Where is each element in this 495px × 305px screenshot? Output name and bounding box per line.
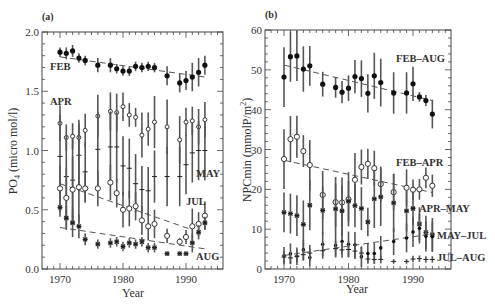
trend-line bbox=[284, 234, 432, 256]
x-tick-label: 1990 bbox=[402, 273, 425, 285]
data-point bbox=[307, 63, 312, 68]
data-point bbox=[133, 204, 138, 209]
label-apr: APR bbox=[50, 96, 72, 107]
data-point bbox=[165, 233, 170, 238]
series-apr-may bbox=[282, 168, 435, 252]
series-feb bbox=[57, 45, 207, 92]
series-feb-aug bbox=[281, 31, 435, 129]
data-point bbox=[391, 90, 396, 95]
data-point bbox=[339, 90, 344, 95]
data-point bbox=[410, 187, 415, 192]
data-point bbox=[177, 80, 182, 85]
panel-a-label: (a) bbox=[42, 11, 54, 23]
y-tick-label: 0.0 bbox=[25, 263, 39, 275]
data-point bbox=[196, 70, 201, 75]
x-tick-label: 1970 bbox=[49, 273, 72, 285]
label-jul-aug: JUL–AUG bbox=[437, 252, 485, 263]
panel-b-label: (b) bbox=[265, 9, 277, 21]
data-point bbox=[365, 161, 370, 166]
data-point bbox=[392, 240, 396, 244]
y-tick-label: 0.5 bbox=[25, 204, 39, 216]
y-tick-label: 1.5 bbox=[25, 85, 39, 97]
panel-a-data bbox=[57, 45, 207, 256]
data-point bbox=[202, 63, 207, 68]
data-point bbox=[83, 128, 87, 132]
data-point bbox=[146, 127, 150, 131]
series-apr bbox=[58, 92, 207, 163]
data-point bbox=[411, 230, 415, 234]
trend-line bbox=[60, 57, 205, 77]
data-point bbox=[83, 58, 88, 63]
data-point bbox=[301, 66, 306, 71]
data-point bbox=[177, 239, 182, 244]
data-point bbox=[76, 185, 81, 190]
data-point bbox=[352, 74, 357, 79]
data-point bbox=[121, 105, 125, 109]
panel-b: (b) 0102030405060 197019801990 Year NPCm… bbox=[239, 9, 486, 296]
data-point bbox=[320, 82, 325, 87]
data-point bbox=[95, 186, 100, 191]
data-point bbox=[152, 221, 157, 226]
data-point bbox=[184, 120, 188, 124]
data-point bbox=[365, 91, 370, 96]
data-point bbox=[153, 120, 157, 124]
panel-a-ytick-labels: 0.00.51.01.52.0 bbox=[25, 26, 39, 275]
data-point bbox=[139, 65, 144, 70]
data-point bbox=[108, 63, 113, 68]
y-tick-label: 0 bbox=[257, 263, 263, 275]
data-point bbox=[146, 64, 151, 69]
data-point bbox=[281, 156, 286, 161]
data-point bbox=[83, 186, 88, 191]
data-point bbox=[183, 78, 188, 83]
data-point bbox=[307, 162, 312, 167]
data-point bbox=[405, 236, 409, 240]
data-point bbox=[57, 186, 62, 191]
data-point bbox=[378, 80, 383, 85]
data-point bbox=[178, 138, 182, 142]
data-point bbox=[404, 185, 409, 190]
y-tick-label: 2.0 bbox=[25, 26, 39, 38]
trend-line bbox=[284, 65, 432, 100]
data-point bbox=[333, 85, 338, 90]
data-point bbox=[404, 90, 409, 95]
data-point bbox=[76, 55, 81, 60]
data-point bbox=[410, 81, 415, 86]
data-point bbox=[64, 51, 69, 56]
data-point bbox=[294, 53, 299, 58]
data-point bbox=[146, 224, 151, 229]
series-jul bbox=[57, 152, 207, 246]
data-point bbox=[133, 64, 138, 69]
data-point bbox=[152, 65, 157, 70]
label-aug: AUG bbox=[196, 251, 219, 262]
data-point bbox=[424, 235, 428, 239]
label-feb: FEB bbox=[50, 61, 70, 72]
panel-b-ylabel: NPCmin (mmolP/m2) bbox=[239, 98, 254, 202]
data-point bbox=[120, 207, 125, 212]
data-point bbox=[165, 125, 169, 129]
label-may: MAY bbox=[196, 168, 221, 179]
data-point bbox=[190, 74, 195, 79]
data-point bbox=[114, 66, 119, 71]
data-point bbox=[379, 246, 383, 250]
data-point bbox=[127, 206, 132, 211]
data-point bbox=[165, 73, 170, 78]
data-point bbox=[71, 134, 75, 138]
trend-line bbox=[60, 184, 192, 230]
data-point bbox=[57, 50, 62, 55]
data-point bbox=[417, 94, 422, 99]
data-point bbox=[134, 115, 138, 119]
label-may-jul: MAY–JUL bbox=[437, 230, 486, 241]
data-point bbox=[423, 98, 428, 103]
data-point bbox=[70, 48, 75, 53]
data-point bbox=[108, 180, 113, 185]
y-tick-label: 1.0 bbox=[25, 145, 39, 157]
x-tick-label: 1980 bbox=[112, 273, 135, 285]
data-point bbox=[359, 164, 364, 169]
data-point bbox=[430, 183, 435, 188]
data-point bbox=[294, 134, 299, 139]
y-tick-label: 60 bbox=[251, 24, 263, 36]
panel-b-ticks bbox=[265, 30, 451, 269]
panel-a: (a) 0.00.51.01.52.0 197019801990 Year PO… bbox=[6, 11, 223, 300]
y-tick-label: 50 bbox=[251, 64, 263, 76]
data-point bbox=[359, 76, 364, 81]
